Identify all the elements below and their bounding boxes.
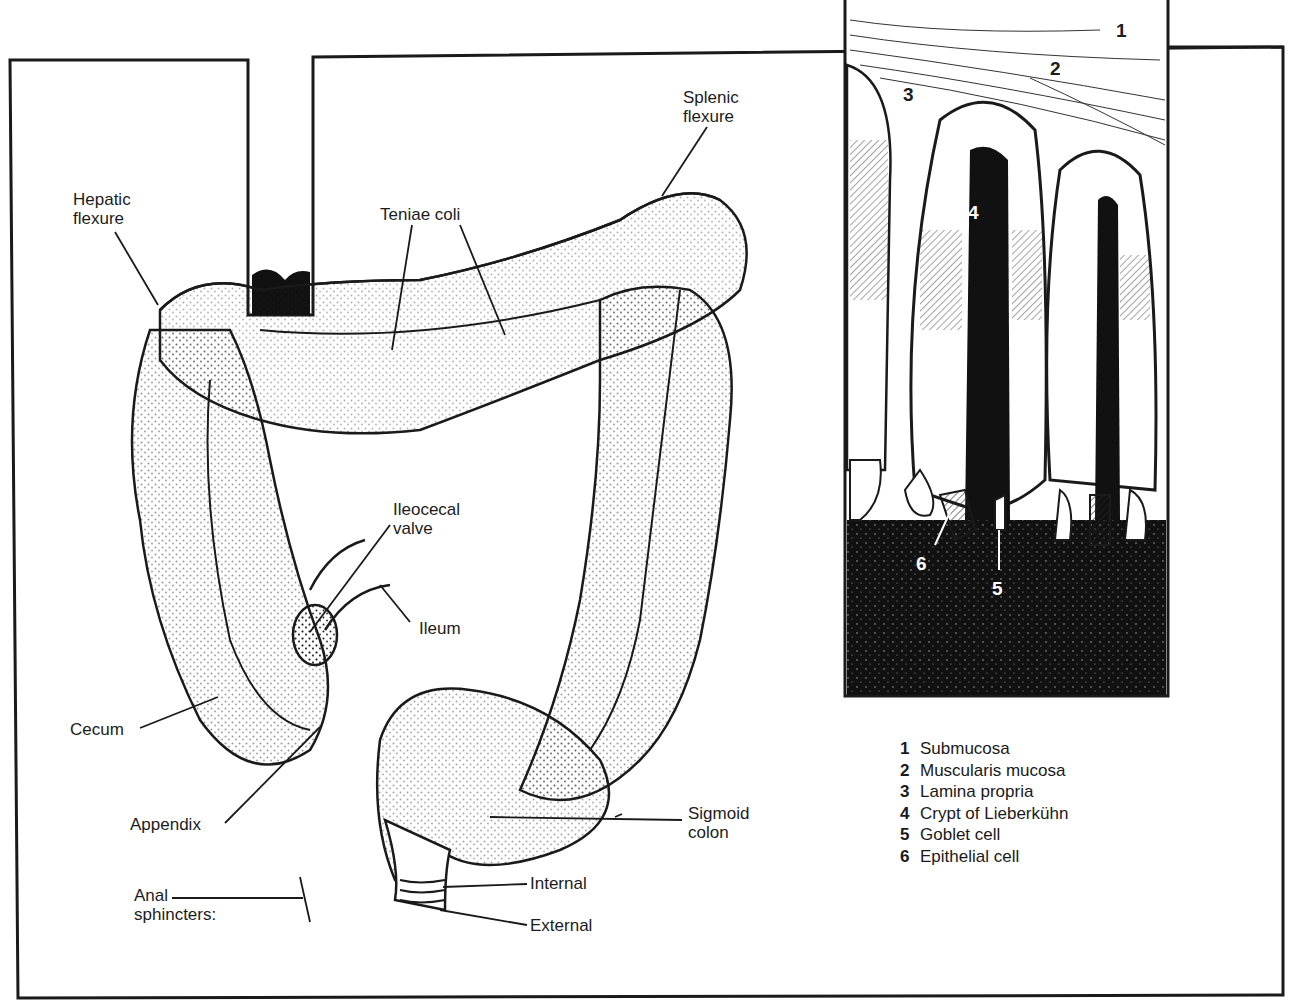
legend-item: 3Lamina propria <box>900 781 1068 803</box>
lamina-propria-dark <box>847 520 1166 695</box>
label-splenic-flexure: Splenic flexure <box>683 88 739 126</box>
marker-6: 6 <box>916 553 927 575</box>
marker-3: 3 <box>903 84 914 106</box>
label-internal-sphincter: Internal <box>530 874 587 893</box>
marker-1: 1 <box>1116 20 1127 42</box>
marker-5: 5 <box>992 578 1003 600</box>
histology-inset <box>845 0 1168 696</box>
colon-illustration <box>132 193 747 910</box>
ileum <box>310 540 365 590</box>
histology-legend: 1Submucosa 2Muscularis mucosa 3Lamina pr… <box>900 738 1068 867</box>
legend-item: 6Epithelial cell <box>900 846 1068 868</box>
marker-4: 4 <box>968 202 979 224</box>
label-external-sphincter: External <box>530 916 592 935</box>
label-anal-sphincters: Anal sphincters: <box>134 886 216 924</box>
label-cecum: Cecum <box>70 720 124 739</box>
label-appendix: Appendix <box>130 815 201 834</box>
label-sigmoid-colon: Sigmoid colon <box>688 804 749 842</box>
label-teniae-coli: Teniae coli <box>380 205 460 224</box>
label-hepatic-flexure: Hepatic flexure <box>73 190 131 228</box>
legend-item: 2Muscularis mucosa <box>900 760 1068 782</box>
diagram-canvas <box>0 0 1292 1007</box>
legend-item: 5Goblet cell <box>900 824 1068 846</box>
legend-item: 1Submucosa <box>900 738 1068 760</box>
ileocecal-valve-opening <box>293 605 337 665</box>
legend-item: 4Crypt of Lieberkühn <box>900 803 1068 825</box>
label-ileum: Ileum <box>419 619 461 638</box>
label-ileocecal-valve: Ileocecal valve <box>393 500 460 538</box>
marker-2: 2 <box>1050 58 1061 80</box>
